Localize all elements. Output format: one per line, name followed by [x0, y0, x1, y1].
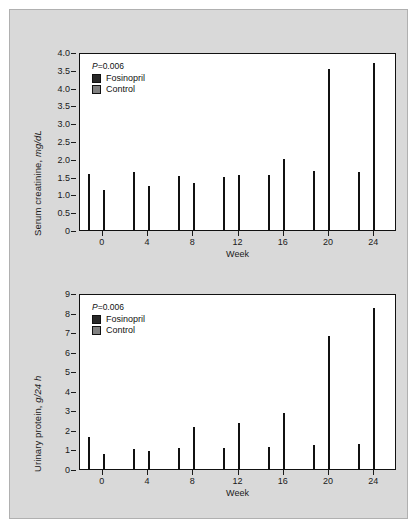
x-axis-tick	[192, 231, 193, 236]
bar-group-week-12	[215, 54, 260, 230]
x-axis-tick	[147, 470, 148, 475]
x-axis-tick	[102, 231, 103, 236]
bar-group-week-0	[80, 295, 125, 469]
x-axis-tick-label: 4	[144, 476, 149, 486]
bar-group-week-16	[260, 295, 305, 469]
y-axis-tick-label: 1.5	[57, 173, 70, 183]
bar-group-week-24	[350, 295, 395, 469]
bar-group-week-24	[350, 54, 395, 230]
bar-fosinopril-week-8	[193, 427, 195, 469]
y-axis-tick-label: 3.5	[57, 66, 70, 76]
chart-panel-urinary-protein: Urinary protein, g/24 h 9876543210 P=0.0…	[10, 272, 409, 518]
y-axis-ticks-serum-creatinine: 4.03.54.03.53.02.52.01.51.00.50	[40, 53, 70, 231]
bar-group-week-4	[125, 54, 170, 230]
plot-area-serum-creatinine: P=0.006FosinoprilControl	[79, 53, 396, 231]
x-axis-tick-label: 0	[99, 237, 104, 247]
x-axis-tick-label: 0	[99, 476, 104, 486]
bar-fosinopril-week-8	[193, 183, 195, 230]
bar-group-week-0	[80, 54, 125, 230]
bar-control-week-20	[313, 445, 315, 469]
x-axis-tick-label: 16	[278, 237, 288, 247]
y-axis-tick-label: 0.5	[57, 208, 70, 218]
x-axis-tick	[328, 470, 329, 475]
y-axis-tick-label: 2	[65, 426, 70, 436]
bar-control-week-8	[178, 176, 180, 230]
y-axis-tick-label: 6	[65, 348, 70, 358]
y-axis-tick-label: 3.5	[57, 101, 70, 111]
x-axis-tick-label: 8	[190, 476, 195, 486]
x-axis-tick	[102, 470, 103, 475]
bar-control-week-0	[88, 437, 90, 469]
x-axis-tick	[238, 470, 239, 475]
plot-area-urinary-protein: P=0.006FosinoprilControl	[79, 294, 396, 470]
y-axis-tick-label: 4	[65, 387, 70, 397]
y-axis-ticks-urinary-protein: 9876543210	[40, 294, 70, 470]
x-axis-urinary-protein: 04812162024Week	[79, 470, 396, 496]
y-axis-tick-label: 3	[65, 406, 70, 416]
bar-fosinopril-week-24	[373, 308, 375, 469]
bar-fosinopril-week-16	[283, 413, 285, 469]
bar-group-week-8	[170, 295, 215, 469]
x-axis-title: Week	[226, 249, 249, 259]
x-axis-tick	[373, 231, 374, 236]
x-axis-tick-label: 24	[368, 476, 378, 486]
y-axis-tick-label: 1.0	[57, 190, 70, 200]
y-axis-tick-label: 0	[65, 226, 70, 236]
y-axis-tick-label: 0	[65, 465, 70, 475]
bar-series-serum-creatinine	[80, 54, 395, 230]
bar-control-week-8	[178, 448, 180, 469]
bar-control-week-16	[268, 175, 270, 230]
x-axis-tick	[283, 231, 284, 236]
bar-fosinopril-week-12	[238, 423, 240, 469]
bar-group-week-8	[170, 54, 215, 230]
x-axis-title: Week	[226, 488, 249, 498]
bar-series-urinary-protein	[80, 295, 395, 469]
y-axis-tick-label: 4.0	[57, 84, 70, 94]
x-axis-serum-creatinine: 04812162024Week	[79, 231, 396, 257]
x-axis-tick-label: 12	[232, 237, 242, 247]
bar-group-week-20	[305, 54, 350, 230]
bar-control-week-20	[313, 171, 315, 230]
bar-fosinopril-week-12	[238, 175, 240, 230]
x-axis-tick-label: 8	[190, 237, 195, 247]
bar-group-week-4	[125, 295, 170, 469]
bar-fosinopril-week-16	[283, 159, 285, 230]
bar-control-week-12	[223, 448, 225, 469]
x-axis-tick-label: 12	[232, 476, 242, 486]
y-axis-tick-label: 8	[65, 309, 70, 319]
bar-group-week-12	[215, 295, 260, 469]
x-axis-tick	[147, 231, 148, 236]
bar-fosinopril-week-24	[373, 63, 375, 230]
x-axis-tick-label: 4	[144, 237, 149, 247]
x-axis-tick	[238, 231, 239, 236]
y-axis-tick-label: 5	[65, 367, 70, 377]
x-axis-tick	[192, 470, 193, 475]
x-axis-tick-label: 16	[278, 476, 288, 486]
y-axis-tick-label: 2.5	[57, 137, 70, 147]
bar-fosinopril-week-4	[148, 451, 150, 469]
x-axis-tick-label: 20	[323, 476, 333, 486]
x-axis-tick	[283, 470, 284, 475]
bar-fosinopril-week-20	[328, 336, 330, 469]
x-axis-tick	[328, 231, 329, 236]
y-axis-tick-label: 2.0	[57, 155, 70, 165]
y-axis-tick-label: 4.0	[57, 48, 70, 58]
y-axis-tick-label: 9	[65, 289, 70, 299]
bar-control-week-12	[223, 177, 225, 230]
y-axis-tick-label: 1	[65, 445, 70, 455]
bar-fosinopril-week-0	[103, 454, 105, 469]
x-axis-tick-label: 20	[323, 237, 333, 247]
chart-panel-serum-creatinine: Serum creatinine, mg/dL 4.03.54.03.53.02…	[10, 22, 409, 272]
bar-fosinopril-week-20	[328, 69, 330, 230]
x-axis-tick-label: 24	[368, 237, 378, 247]
figure-page: Serum creatinine, mg/dL 4.03.54.03.53.02…	[9, 9, 408, 519]
bar-control-week-16	[268, 447, 270, 469]
bar-control-week-24	[358, 444, 360, 469]
bar-control-week-4	[133, 449, 135, 469]
bar-control-week-0	[88, 174, 90, 230]
bar-group-week-16	[260, 54, 305, 230]
bar-group-week-20	[305, 295, 350, 469]
bar-control-week-4	[133, 172, 135, 230]
bar-control-week-24	[358, 172, 360, 230]
y-axis-tick-label: 7	[65, 328, 70, 338]
